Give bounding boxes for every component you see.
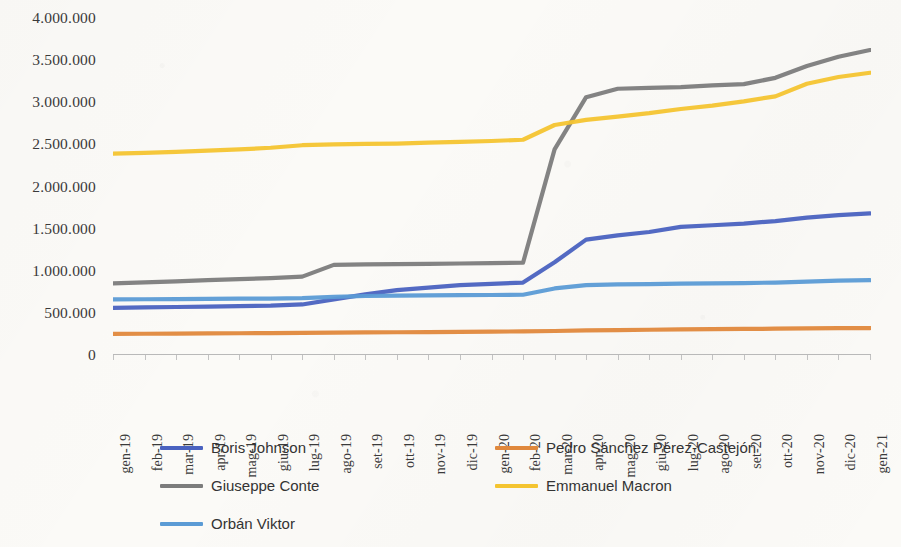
series-line [113, 73, 870, 154]
legend-item[interactable]: Emmanuel Macron [495, 478, 672, 493]
x-axis-tick [744, 355, 745, 360]
x-axis-tick [712, 355, 713, 360]
x-axis-tick [838, 355, 839, 360]
x-axis-tick [365, 355, 366, 360]
legend-item[interactable]: Orbán Viktor [160, 516, 295, 531]
legend-item[interactable]: Giuseppe Conte [160, 478, 319, 493]
legend-label: Boris Johnson [211, 440, 306, 455]
x-axis-tick-label: gen-19 [118, 434, 134, 473]
x-axis-tick [145, 355, 146, 360]
series-line [113, 328, 870, 334]
legend-item[interactable]: Boris Johnson [160, 440, 306, 455]
x-axis-tick [176, 355, 177, 360]
x-axis-tick [649, 355, 650, 360]
x-axis-tick [239, 355, 240, 360]
y-axis: 4.000.0003.500.0003.000.0002.500.0002.00… [0, 0, 104, 547]
legend-label: Emmanuel Macron [546, 478, 672, 493]
x-axis-tick [681, 355, 682, 360]
x-axis-tick [523, 355, 524, 360]
y-axis-tick-label: 3.500.000 [32, 51, 96, 69]
x-axis-tick [555, 355, 556, 360]
x-axis-tick [208, 355, 209, 360]
x-axis-tick [807, 355, 808, 360]
x-axis-tick [428, 355, 429, 360]
y-axis-tick-label: 1.000.000 [32, 262, 96, 280]
x-axis-tick [586, 355, 587, 360]
x-axis-tick [870, 355, 871, 360]
legend-label: Orbán Viktor [211, 516, 295, 531]
legend-color-swatch [160, 446, 203, 450]
x-axis-ticks [113, 355, 871, 361]
chart-legend: Boris JohnsonPedro Sánchez Pérez-Castejó… [160, 440, 880, 540]
x-axis-tick [271, 355, 272, 360]
y-axis-tick-label: 2.500.000 [32, 135, 96, 153]
x-axis-tick [775, 355, 776, 360]
y-axis-tick-label: 0 [88, 346, 96, 364]
series-canvas [113, 18, 871, 355]
x-axis-tick [618, 355, 619, 360]
legend-label: Pedro Sánchez Pérez-Castejón [546, 440, 756, 455]
plot-area [113, 18, 871, 355]
series-line [113, 50, 870, 283]
legend-label: Giuseppe Conte [211, 478, 319, 493]
x-axis-tick [397, 355, 398, 360]
legend-color-swatch [160, 522, 203, 526]
y-axis-tick-label: 500.000 [44, 304, 96, 322]
line-chart: 4.000.0003.500.0003.000.0002.500.0002.00… [0, 0, 901, 547]
y-axis-tick-label: 1.500.000 [32, 220, 96, 238]
x-axis-tick [302, 355, 303, 360]
x-axis-tick [113, 355, 114, 360]
legend-color-swatch [160, 484, 203, 488]
x-axis-tick [460, 355, 461, 360]
y-axis-tick-label: 4.000.000 [32, 9, 96, 27]
legend-color-swatch [495, 484, 538, 488]
x-axis-labels: gen-19feb-19mar-19apr-19mag-19giu-19lug-… [113, 362, 871, 437]
x-axis-tick [334, 355, 335, 360]
y-axis-tick-label: 2.000.000 [32, 178, 96, 196]
x-axis-tick [492, 355, 493, 360]
legend-color-swatch [495, 446, 538, 450]
legend-item[interactable]: Pedro Sánchez Pérez-Castejón [495, 440, 756, 455]
y-axis-tick-label: 3.000.000 [32, 93, 96, 111]
